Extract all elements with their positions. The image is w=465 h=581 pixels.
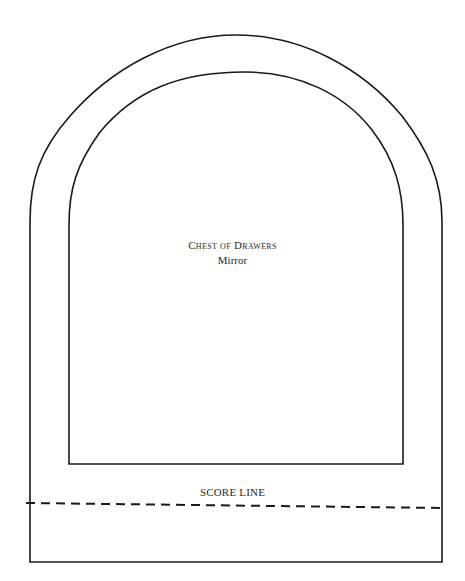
score-line [26, 503, 442, 508]
piece-title: Chest of Drawers [0, 239, 465, 251]
outer-frame-outline [30, 35, 442, 562]
score-line-label: SCORE LINE [0, 486, 465, 498]
inner-opening-outline [69, 72, 403, 464]
piece-subtitle: Mirror [0, 254, 465, 266]
